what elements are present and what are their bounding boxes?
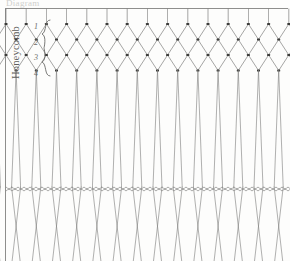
honeycomb-label: Honeycomb (10, 16, 21, 90)
row-number-brace (38, 18, 52, 82)
diagram-page: Diagram Honeycomb 1234 (0, 0, 290, 261)
row-number-3: 3 (30, 53, 38, 62)
row-number-2: 2 (30, 38, 38, 47)
brace-icon (38, 18, 52, 78)
row-number-1: 1 (30, 22, 38, 31)
wavy-cords (6, 187, 290, 191)
row-number-4: 4 (30, 69, 38, 78)
hanging-strands (0, 71, 283, 261)
